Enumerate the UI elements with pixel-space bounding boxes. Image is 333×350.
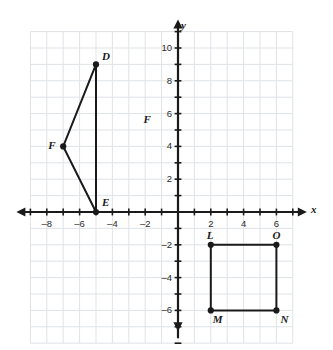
y-axis-title: y: [181, 19, 186, 31]
vertex-label-O: O: [272, 229, 280, 241]
vertex-point-D: [93, 61, 99, 67]
y-tick-label: 10: [152, 42, 172, 53]
y-tick-label: –6: [152, 304, 172, 315]
vertex-label-D: D: [102, 50, 110, 62]
vertex-point-N: [273, 307, 279, 313]
x-tick-label: 4: [237, 218, 251, 229]
y-tick-label: 2: [152, 173, 172, 184]
vertex-label-E: E: [102, 196, 109, 208]
vertex-point-L: [208, 242, 214, 248]
x-tick-label: –8: [40, 218, 54, 229]
vertex-point-F: [60, 143, 66, 149]
y-tick-label: 8: [152, 75, 172, 86]
x-axis-arrow-left: [16, 207, 25, 216]
y-tick-label: –4: [152, 272, 172, 283]
x-tick-label: –4: [105, 218, 119, 229]
x-tick-label: 6: [269, 218, 283, 229]
vertex-label-F: F: [48, 139, 55, 151]
x-tick-label: –6: [73, 218, 87, 229]
vertex-point-E: [93, 209, 99, 215]
x-axis-arrow-right: [298, 207, 307, 216]
coordinate-plane-figure: DEFLONMF–8–6–4–2246108642–2–4–6 x y: [0, 0, 333, 350]
vertex-point-O: [273, 242, 279, 248]
vertex-label-N: N: [280, 313, 288, 325]
stray-f-label: F: [144, 113, 151, 125]
x-tick-label: –2: [138, 218, 152, 229]
vertex-label-M: M: [213, 313, 223, 325]
x-tick-label: 2: [204, 218, 218, 229]
y-tick-label: –2: [152, 239, 172, 250]
y-tick-label: 4: [152, 140, 172, 151]
x-axis-title: x: [311, 203, 317, 215]
y-tick-label: 6: [152, 108, 172, 119]
vertex-label-L: L: [207, 229, 214, 241]
